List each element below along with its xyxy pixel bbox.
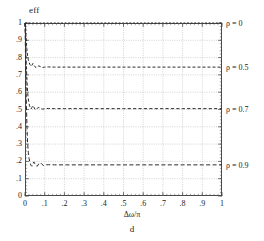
data-curves — [25, 23, 222, 196]
x-tick-label: .9 — [192, 199, 212, 208]
y-tick-label: 1 — [2, 19, 22, 27]
x-tick-label: .3 — [74, 199, 94, 208]
figure-panel: eff 0.1.2.3.4.5.6.7.8.91 0.1.2.3.4.5.6.7… — [0, 0, 264, 241]
x-tick-label: .5 — [114, 199, 134, 208]
y-tick-label: .7 — [2, 71, 22, 79]
plot-area — [25, 23, 222, 196]
legend-item-1: ρ = 0.5 — [226, 63, 249, 72]
y-tick-label: .8 — [2, 54, 22, 62]
y-tick-label: .9 — [2, 36, 22, 44]
x-tick-label: .4 — [94, 199, 114, 208]
y-tick-label: .1 — [2, 175, 22, 183]
x-axis-label: Δω/π — [0, 210, 264, 219]
y-tick-label: .6 — [2, 88, 22, 96]
x-tick-label: .7 — [153, 199, 173, 208]
x-tick-label: .1 — [35, 199, 55, 208]
y-tick-label: .2 — [2, 157, 22, 165]
curve-1 — [25, 23, 222, 68]
x-tick-label: .6 — [133, 199, 153, 208]
legend-item-0: ρ = 0 — [226, 19, 243, 28]
x-tick-label: .2 — [54, 199, 74, 208]
legend: ρ = 0ρ = 0.5ρ = 0.7ρ = 0.9 — [226, 0, 264, 241]
x-axis-label-text: Δω/π — [124, 210, 141, 219]
curve-3 — [25, 23, 222, 166]
y-axis-tick-labels: 0.1.2.3.4.5.6.7.8.91 — [0, 23, 22, 196]
y-tick-label: .5 — [2, 106, 22, 114]
figure-caption: d — [0, 224, 264, 234]
y-axis-label: eff — [29, 5, 39, 15]
legend-item-2: ρ = 0.7 — [226, 105, 249, 114]
legend-item-3: ρ = 0.9 — [226, 161, 249, 170]
y-tick-label: .3 — [2, 140, 22, 148]
y-tick-label: .4 — [2, 123, 22, 131]
x-tick-label: 0 — [15, 199, 35, 208]
curve-2 — [25, 23, 222, 110]
x-tick-label: .8 — [173, 199, 193, 208]
